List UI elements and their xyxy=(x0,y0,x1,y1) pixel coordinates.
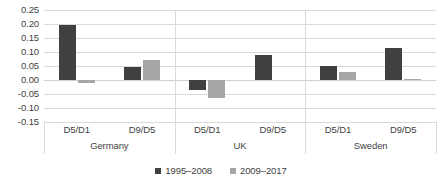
bar xyxy=(339,72,356,80)
bar xyxy=(124,67,141,80)
bars-layer xyxy=(44,10,436,122)
category-label: D9/D5 xyxy=(390,124,416,136)
axis-edge-separator xyxy=(436,122,437,154)
category-label: D5/D1 xyxy=(194,124,220,136)
group-label: UK xyxy=(234,140,247,152)
y-tick-label: 0.00 xyxy=(21,75,39,85)
category-label: D9/D5 xyxy=(259,124,285,136)
category-label: D5/D1 xyxy=(325,124,351,136)
y-tick-label: -0.10 xyxy=(18,103,39,113)
legend-label: 1995–2008 xyxy=(165,166,212,176)
legend-swatch-icon xyxy=(155,168,161,174)
group-separator xyxy=(175,10,176,122)
y-tick-label: -0.05 xyxy=(18,89,39,99)
bar xyxy=(78,80,95,83)
category-label: D5/D1 xyxy=(63,124,89,136)
plot-area xyxy=(44,10,436,122)
y-tick-label: 0.20 xyxy=(21,19,39,29)
y-tick-label: 0.15 xyxy=(21,33,39,43)
group-label: Sweden xyxy=(354,140,388,152)
bar xyxy=(255,55,272,80)
y-tick-label: 0.10 xyxy=(21,47,39,57)
legend-label: 2009–2017 xyxy=(240,166,287,176)
bar xyxy=(320,66,337,80)
axis-group-separator xyxy=(305,122,306,154)
legend: 1995–20082009–2017 xyxy=(0,166,442,176)
bar xyxy=(189,80,206,90)
bar xyxy=(404,79,421,80)
category-axis-labels: D5/D1D9/D5D5/D1D9/D5D5/D1D9/D5 xyxy=(44,124,436,138)
axis-group-separator xyxy=(175,122,176,154)
y-axis: 0.250.200.150.100.050.00-0.05-0.10-0.15 xyxy=(0,10,42,122)
legend-item: 2009–2017 xyxy=(230,166,287,176)
bar-chart: 0.250.200.150.100.050.00-0.05-0.10-0.15 … xyxy=(0,0,442,189)
bar xyxy=(385,48,402,80)
category-label: D9/D5 xyxy=(129,124,155,136)
group-label: Germany xyxy=(90,140,128,152)
legend-swatch-icon xyxy=(230,168,236,174)
y-tick-label: -0.15 xyxy=(18,117,39,127)
legend-item: 1995–2008 xyxy=(155,166,212,176)
axis-edge-separator xyxy=(44,122,45,154)
bar xyxy=(208,80,225,98)
group-separator xyxy=(305,10,306,122)
gridline xyxy=(44,122,436,123)
bar xyxy=(59,25,76,80)
bar xyxy=(143,60,160,80)
y-tick-label: 0.05 xyxy=(21,61,39,71)
group-axis-labels: GermanyUKSweden xyxy=(44,140,436,154)
y-tick-label: 0.25 xyxy=(21,5,39,15)
